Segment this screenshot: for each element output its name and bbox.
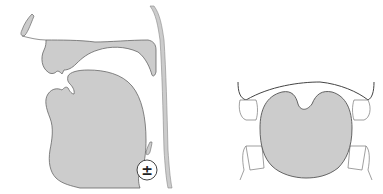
upper-molar-right (353, 100, 371, 120)
upper-molar-left (239, 100, 257, 120)
nose-outline (21, 14, 34, 36)
pharyngeal-wall (150, 6, 172, 188)
lower-molar-right (348, 146, 372, 180)
tongue-body-coronal (260, 92, 352, 179)
voicing-symbol: ± (141, 162, 153, 178)
tongue-lower-jaw (46, 70, 146, 188)
sagittal-section: ± (21, 6, 172, 188)
philtrum-line (22, 36, 46, 40)
voicing-badge: ± (137, 160, 157, 180)
palate-arch (238, 82, 374, 100)
coronal-section (238, 82, 374, 180)
lower-molar-left (240, 146, 264, 180)
articulation-diagram: ± (0, 0, 383, 194)
epiglottis (146, 142, 152, 155)
